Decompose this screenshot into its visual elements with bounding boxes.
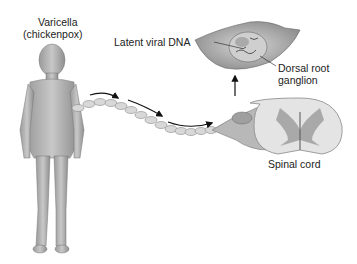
- varicella-label-line2: (chickenpox): [23, 28, 83, 40]
- varicella-latency-diagram: Varicella (chickenpox) Latent viral DNA …: [0, 0, 357, 264]
- latent-dna-label: Latent viral DNA: [114, 36, 190, 48]
- drg-label-line2: ganglion: [278, 74, 329, 86]
- spinal-cord-label: Spinal cord: [268, 158, 321, 170]
- child-figure: [20, 44, 84, 253]
- nerve-fiber: [72, 99, 217, 136]
- spinal-cord-section: [212, 98, 342, 154]
- varicella-label: Varicella (chickenpox): [33, 16, 83, 40]
- varicella-label-line1: Varicella: [33, 16, 83, 28]
- drg-label: Dorsal root ganglion: [278, 62, 329, 86]
- drg-label-line1: Dorsal root: [278, 62, 329, 74]
